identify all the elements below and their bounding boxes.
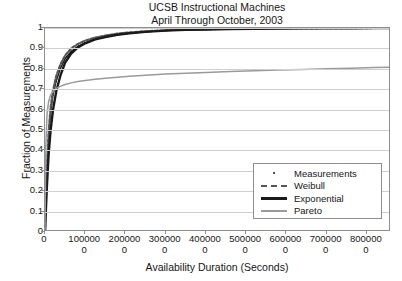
y-tick-label: 0.5 [9,124,43,133]
y-tick-label: 0.2 [9,185,43,194]
x-axis-title: Availability Duration (Seconds) [44,261,390,273]
legend-marker-gray-line-icon [254,210,294,212]
legend-item-pareto: Pareto [254,205,381,218]
legend-label-exponential: Exponential [294,193,344,204]
chart-figure: UCSB Instructional Machines April Throug… [0,0,402,281]
legend-item-exponential: Exponential [254,192,381,205]
x-tick-mark [205,231,206,234]
y-tick-label: 0.9 [9,42,43,51]
y-tick-label: 0.1 [9,206,43,215]
x-tick-mark [245,231,246,234]
gridline [45,150,389,151]
chart-legend: Measurements Weibull Exponential Pareto [253,163,382,219]
y-tick-label: 0.8 [9,63,43,72]
legend-label-weibull: Weibull [294,180,325,191]
legend-item-measurements: Measurements [254,167,381,180]
gridline [45,69,389,70]
chart-title-line-2: April Through October, 2003 [44,14,390,27]
gridline [45,48,389,49]
y-tick-label: 0.7 [9,83,43,92]
gridline [45,28,389,29]
x-tick-mark [84,231,85,234]
gridline [45,89,389,90]
gridline [45,110,389,111]
legend-item-weibull: Weibull [254,180,381,193]
legend-label-pareto: Pareto [294,205,322,216]
x-tick-mark [285,231,286,234]
chart-title: UCSB Instructional Machines April Throug… [44,1,390,27]
gridline [45,130,389,131]
legend-marker-thick-line-icon [254,197,294,200]
y-tick-label: 0.4 [9,144,43,153]
x-tick-mark [165,231,166,234]
x-tick-mark [326,231,327,234]
x-tick-mark [44,231,45,234]
x-tick-label: 8000000 [339,234,393,255]
x-tick-mark [124,231,125,234]
y-tick-label: 0.6 [9,104,43,113]
y-tick-label: 1 [9,22,43,31]
legend-marker-dashed-line-icon [254,185,294,187]
x-tick-mark [366,231,367,234]
chart-title-line-1: UCSB Instructional Machines [44,1,390,14]
legend-label-measurements: Measurements [294,168,357,179]
legend-marker-dot-icon [254,172,294,174]
y-tick-label: 0.3 [9,165,43,174]
